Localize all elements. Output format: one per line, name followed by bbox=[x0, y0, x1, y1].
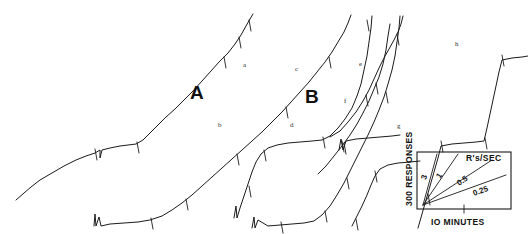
cumulative-curve-c bbox=[234, 16, 372, 218]
curve-label-h: h bbox=[455, 40, 459, 48]
curve-label-f: f bbox=[344, 97, 347, 105]
reset-tick-h3 bbox=[485, 138, 487, 149]
reset-tick-b3 bbox=[237, 154, 239, 165]
cumulative-curve-f bbox=[318, 24, 390, 174]
section-label-b: B bbox=[305, 86, 319, 107]
cumulative-record-figure: A B a b c d e f g h 3 1 0.5 0.25 R's/SEC… bbox=[0, 0, 528, 234]
curve-label-b: b bbox=[218, 121, 222, 129]
reset-tick-a4 bbox=[239, 37, 241, 48]
reset-tick-a2 bbox=[137, 142, 139, 153]
reset-tick-f2 bbox=[376, 83, 378, 94]
curve-label-a: a bbox=[243, 61, 247, 69]
reset-tick-c4 bbox=[367, 20, 369, 31]
reset-tick-b5 bbox=[329, 57, 331, 68]
reset-tick-d3 bbox=[347, 178, 349, 189]
key-x-axis-label: IO MINUTES bbox=[431, 217, 485, 227]
curve-label-g: g bbox=[397, 122, 401, 130]
reset-tick-a5 bbox=[249, 20, 251, 31]
reset-tick-c1 bbox=[249, 186, 251, 197]
curve-label-e: e bbox=[359, 60, 362, 68]
reset-tick-g1 bbox=[356, 219, 358, 230]
section-label-a: A bbox=[190, 82, 204, 103]
reset-tick-d1 bbox=[281, 222, 283, 233]
calibration-key: 3 1 0.5 0.25 R's/SEC 300 RESPONSES IO MI… bbox=[404, 131, 511, 227]
reset-tick-b4 bbox=[286, 107, 288, 118]
reset-tick-d2 bbox=[325, 211, 327, 222]
reset-tick-a3 bbox=[224, 57, 226, 68]
rate-units-label: R's/SEC bbox=[466, 153, 502, 163]
reset-tick-d4 bbox=[386, 92, 388, 103]
slope-label-3: 3 bbox=[419, 173, 429, 180]
cumulative-curve-e bbox=[330, 16, 403, 137]
curve-label-d: d bbox=[290, 121, 294, 129]
cumulative-curve-d bbox=[252, 16, 400, 228]
reset-tick-b2 bbox=[186, 199, 188, 210]
key-y-axis-label: 300 RESPONSES bbox=[404, 131, 414, 206]
cumulative-curve-b bbox=[94, 15, 351, 226]
curve-label-c: c bbox=[295, 65, 298, 73]
reset-tick-a1 bbox=[95, 149, 97, 160]
reset-tick-c2 bbox=[264, 150, 266, 161]
